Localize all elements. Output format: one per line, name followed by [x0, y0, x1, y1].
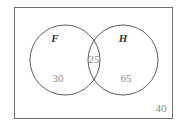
set-h-label: H [118, 32, 128, 44]
count-f-only: 30 [53, 72, 65, 84]
set-f-label: F [50, 32, 59, 44]
venn-diagram-figure: F H 30 25 65 40 [0, 0, 182, 127]
count-outside: 40 [156, 102, 168, 114]
venn-diagram-canvas: F H 30 25 65 40 [0, 0, 182, 127]
count-h-only: 65 [121, 72, 133, 84]
count-intersection: 25 [89, 53, 101, 65]
